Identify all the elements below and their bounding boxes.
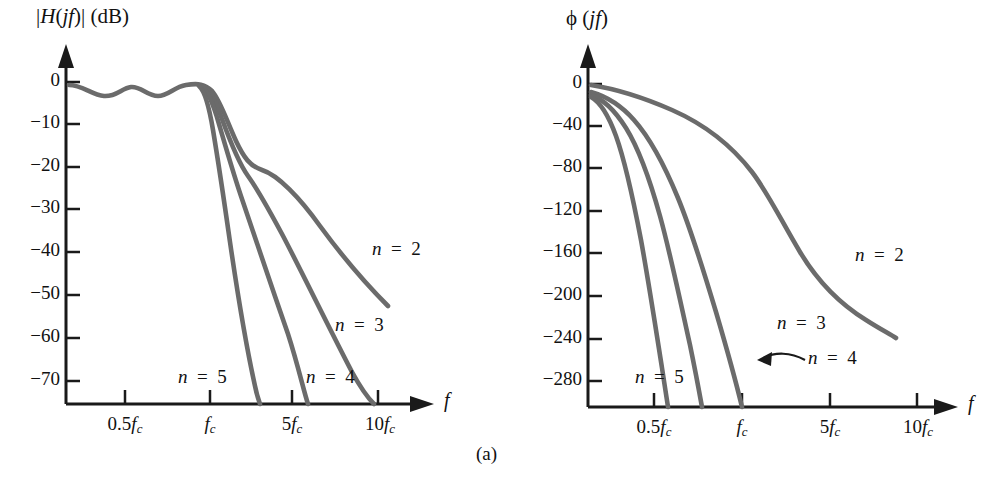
magnitude-plot-axes: [58, 44, 434, 412]
magnitude-x-axis-variable: f: [444, 390, 450, 410]
phase-x-ticks: [654, 393, 917, 407]
magnitude-curve-n4: [201, 86, 308, 404]
phase-curve-label-n3: n = 3: [777, 313, 826, 332]
phase-curve-label-n4: n = 4: [808, 348, 857, 367]
magnitude-ytick-30: −30: [8, 197, 60, 216]
phase-ytick-40: −40: [512, 114, 582, 133]
phase-xtick-0.5fc: 0.5fc: [637, 417, 672, 439]
figure-svg: [0, 0, 996, 477]
phase-ytick-200: −200: [512, 284, 582, 303]
magnitude-ytick-0: 0: [8, 70, 60, 89]
magnitude-ytick-50: −50: [8, 283, 60, 302]
magnitude-ytick-10: −10: [8, 112, 60, 131]
magnitude-curve-label-n2: n = 2: [372, 239, 421, 258]
phase-curve-label-n5: n = 5: [635, 367, 684, 386]
magnitude-ytick-70: −70: [8, 369, 60, 388]
magnitude-ytick-40: −40: [8, 240, 60, 259]
phase-xtick-fc: fc: [736, 417, 747, 439]
phase-curve-label-n2: n = 2: [855, 245, 904, 264]
magnitude-y-axis-arrowhead: [58, 44, 74, 68]
phase-xtick-5fc: 5fc: [820, 417, 841, 439]
phase-axis-title-render: ϕ (jf): [566, 6, 608, 30]
magnitude-xtick-fc: fc: [204, 414, 215, 436]
phase-xtick-10fc: 10fc: [903, 417, 933, 439]
magnitude-y-ticks: [66, 82, 80, 381]
figure-caption: (a): [476, 444, 497, 463]
phase-y-ticks: [588, 84, 602, 381]
magnitude-axis-title-render: |H(jf)| (dB): [36, 4, 129, 28]
magnitude-curves: [69, 84, 388, 404]
butterworth-chebyshev-response-figure: |H(jf)| (dB) |H(jf)| (dB) 0 −10 −20 −30 …: [0, 0, 996, 477]
phase-ytick-80: −80: [512, 156, 582, 175]
magnitude-xtick-5fc: 5fc: [282, 414, 303, 436]
phase-ytick-120: −120: [512, 199, 582, 218]
phase-ytick-0: 0: [512, 72, 582, 91]
phase-x-axis-variable: f: [968, 393, 974, 413]
magnitude-ytick-20: −20: [8, 155, 60, 174]
magnitude-xtick-0.5fc: 0.5fc: [108, 414, 143, 436]
phase-n4-callout-arrow: [757, 352, 805, 366]
magnitude-axis-title: |H(jf)| (dB) |H(jf)| (dB): [36, 6, 129, 27]
phase-axis-title: ϕ (jf) ϕ (jf): [566, 8, 608, 29]
phase-curve-n4: [591, 95, 702, 407]
magnitude-x-ticks: [125, 390, 378, 404]
magnitude-x-axis-arrowhead: [410, 396, 434, 412]
magnitude-curve-label-n5: n = 5: [178, 367, 227, 386]
phase-ytick-240: −240: [512, 327, 582, 346]
magnitude-curve-label-n4: n = 4: [306, 367, 355, 386]
magnitude-curve-n2: [69, 84, 388, 306]
magnitude-xtick-10fc: 10fc: [365, 414, 395, 436]
phase-ytick-280: −280: [512, 369, 582, 388]
magnitude-ytick-60: −60: [8, 326, 60, 345]
phase-curve-n5: [591, 97, 668, 407]
phase-x-axis-arrowhead: [934, 399, 958, 415]
phase-y-axis-arrowhead: [580, 44, 596, 68]
magnitude-curve-label-n3: n = 3: [335, 315, 384, 334]
phase-ytick-160: −160: [512, 241, 582, 260]
